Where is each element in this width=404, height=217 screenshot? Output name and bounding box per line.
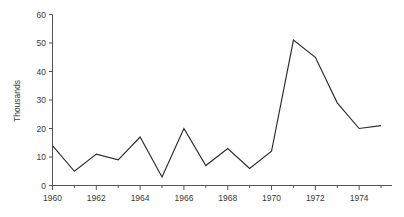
x-tick-label-1968: 1968: [218, 193, 237, 203]
y-tick-label-40: 40: [37, 67, 47, 77]
y-tick-label-10: 10: [37, 152, 47, 162]
line-chart: Thousands 0102030405060 1960196219641966…: [0, 0, 404, 217]
x-tick-label-1972: 1972: [306, 193, 325, 203]
x-tick-label-1962: 1962: [87, 193, 106, 203]
y-axis-title: Thousands: [12, 80, 22, 122]
y-tick-label-20: 20: [37, 124, 47, 134]
chart-canvas: Thousands 0102030405060 1960196219641966…: [0, 0, 404, 217]
x-tick-label-1966: 1966: [174, 193, 193, 203]
x-tick-label-1970: 1970: [262, 193, 281, 203]
y-tick-label-30: 30: [37, 95, 47, 105]
x-tick-label-1960: 1960: [43, 193, 62, 203]
y-tick-label-60: 60: [37, 10, 47, 20]
y-tick-label-0: 0: [41, 181, 46, 191]
chart-background: [0, 0, 404, 217]
x-tick-label-1974: 1974: [350, 193, 369, 203]
y-tick-label-50: 50: [37, 38, 47, 48]
x-tick-label-1964: 1964: [131, 193, 150, 203]
